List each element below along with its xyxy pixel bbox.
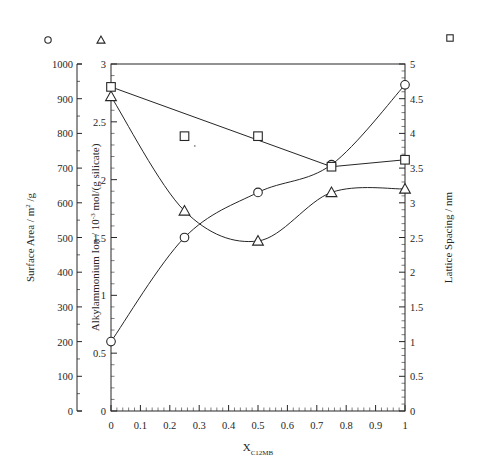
data-point-circle: [107, 337, 116, 346]
tick-label-x: 0.6: [281, 420, 294, 431]
tick-label-surface-area: 300: [57, 302, 73, 313]
chart-svg: 01002003004005006007008009001000 00.511.…: [0, 0, 477, 470]
tick-label-alkylammonium-ion: 0.5: [93, 348, 106, 359]
tick-label-lattice-spacing: 4.5: [410, 94, 423, 105]
tick-label-x: 1: [402, 420, 407, 431]
tick-label-lattice-spacing: 3.5: [410, 163, 423, 174]
tick-label-alkylammonium-ion: 2: [101, 175, 106, 186]
tick-label-alkylammonium-ion: 0: [101, 406, 106, 417]
tick-label-lattice-spacing: 1: [410, 337, 415, 348]
tick-label-surface-area: 500: [57, 233, 73, 244]
tick-label-surface-area: 1000: [52, 59, 73, 70]
data-point-circle: [401, 81, 410, 90]
tick-label-x: 0.7: [310, 420, 323, 431]
tick-label-lattice-spacing: 4: [410, 128, 416, 139]
tick-label-alkylammonium-ion: 1: [101, 290, 106, 301]
tick-label-alkylammonium-ion: 2.5: [93, 117, 106, 128]
chart-figure: 01002003004005006007008009001000 00.511.…: [0, 0, 477, 470]
data-point-circle: [254, 188, 263, 197]
tick-label-x: 0.9: [369, 420, 382, 431]
tick-label-lattice-spacing: 0.5: [410, 371, 423, 382]
tick-label-lattice-spacing: 2: [410, 267, 415, 278]
tick-label-x: 0.1: [134, 420, 147, 431]
tick-label-lattice-spacing: 2.5: [410, 233, 423, 244]
tick-label-surface-area: 0: [68, 406, 73, 417]
data-point-square: [327, 162, 336, 171]
tick-label-lattice-spacing: 0: [410, 406, 415, 417]
tick-label-x: 0.5: [251, 420, 264, 431]
tick-label-x: 0: [108, 420, 113, 431]
data-point-circle: [180, 233, 189, 242]
data-point-square: [107, 83, 116, 92]
data-point-square: [180, 132, 189, 141]
legend-marker-circle-surface-area: [45, 37, 51, 43]
data-point-square: [401, 155, 410, 164]
tick-label-lattice-spacing: 1.5: [410, 302, 423, 313]
tick-label-lattice-spacing: 3: [410, 198, 415, 209]
tick-label-surface-area: 800: [57, 128, 73, 139]
tick-label-x: 0.8: [340, 420, 353, 431]
tick-label-alkylammonium-ion: 3: [101, 59, 106, 70]
axis-title-lattice-spacing: Lattice Spacing / nm: [442, 191, 454, 283]
tick-label-surface-area: 700: [57, 163, 73, 174]
tick-label-x: 0.4: [222, 420, 236, 431]
scan-artifact-dot: [194, 145, 196, 147]
axis-title-alkylammonium-ion: Alkylammonium Ion / 10-3 mol/(g silicate…: [89, 143, 102, 331]
tick-label-surface-area: 100: [57, 371, 73, 382]
tick-label-surface-area: 600: [57, 198, 73, 209]
tick-label-lattice-spacing: 5: [410, 59, 415, 70]
tick-label-x: 0.3: [193, 420, 206, 431]
tick-label-surface-area: 200: [57, 337, 73, 348]
tick-label-x: 0.2: [163, 420, 176, 431]
legend-marker-square-lattice-spacing: [447, 35, 453, 41]
tick-label-surface-area: 400: [57, 267, 73, 278]
tick-label-surface-area: 900: [57, 94, 73, 105]
data-point-square: [254, 132, 263, 141]
